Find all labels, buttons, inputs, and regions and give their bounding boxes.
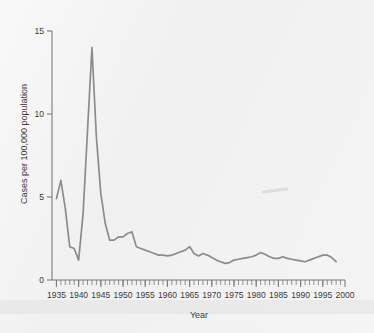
data-series-line: [56, 48, 336, 264]
y-axis-tick-labels: 051015: [35, 26, 45, 285]
x-tick-label: 1950: [114, 290, 133, 300]
x-axis-tick-labels: 1935194019451950195519601965197019751980…: [47, 290, 355, 300]
x-tick-label: 1980: [247, 290, 266, 300]
x-tick-label: 1975: [225, 290, 244, 300]
x-axis-major-ticks: [56, 280, 345, 287]
y-axis-ticks: [47, 31, 52, 280]
x-tick-label: 1990: [291, 290, 310, 300]
x-tick-label: 1935: [47, 290, 66, 300]
x-tick-label: 1940: [69, 290, 88, 300]
x-axis-minor-ticks: [56, 280, 340, 285]
y-tick-label: 10: [35, 109, 45, 119]
y-tick-label: 5: [39, 192, 44, 202]
x-tick-label: 2000: [336, 290, 355, 300]
x-tick-label: 1945: [91, 290, 110, 300]
x-tick-label: 1985: [269, 290, 288, 300]
figure-canvas: Cases per 100,000 population 051015 1935…: [0, 0, 374, 333]
x-tick-label: 1955: [136, 290, 155, 300]
x-tick-label: 1970: [202, 290, 221, 300]
x-tick-label: 1995: [313, 290, 332, 300]
x-tick-label: 1965: [180, 290, 199, 300]
y-tick-label: 0: [39, 275, 44, 285]
line-chart: Cases per 100,000 population 051015 1935…: [0, 0, 374, 333]
x-tick-label: 1960: [158, 290, 177, 300]
x-axis-title: Year: [190, 310, 208, 320]
y-axis-title: Cases per 100,000 population: [19, 84, 29, 204]
y-tick-label: 15: [35, 26, 45, 36]
